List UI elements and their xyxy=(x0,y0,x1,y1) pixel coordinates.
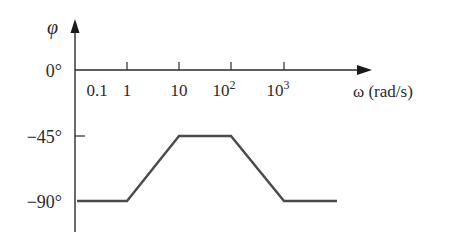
x-tick-label-1000-base: 10 xyxy=(267,81,284,100)
y-axis-arrow-icon xyxy=(71,19,80,33)
y-tick-label-0: 0° xyxy=(46,61,62,81)
x-tick-label-1000: 103 xyxy=(267,78,290,100)
x-tick-label-100: 102 xyxy=(213,78,236,100)
x-tick-label-1: 1 xyxy=(123,81,132,100)
x-tick-label-0.1: 0.1 xyxy=(86,81,107,100)
y-axis-label: φ xyxy=(47,16,58,39)
phase-curve xyxy=(77,136,337,201)
x-tick-label-1000-exp: 3 xyxy=(284,78,290,92)
x-tick-label-100-base: 10 xyxy=(213,81,230,100)
x-tick-label-100-exp: 2 xyxy=(230,78,236,92)
x-axis-label: ω (rad/s) xyxy=(353,82,413,101)
y-tick-label-minus90: −90° xyxy=(27,192,62,212)
x-axis-arrow-icon xyxy=(357,65,372,75)
bode-phase-plot: φ 0° −45° −90° 0.1 1 10 102 103 ω (rad/s… xyxy=(0,0,453,240)
y-tick-label-minus45: −45° xyxy=(27,127,62,147)
x-tick-label-10: 10 xyxy=(171,81,188,100)
chart-canvas: φ 0° −45° −90° 0.1 1 10 102 103 ω (rad/s… xyxy=(0,0,453,240)
